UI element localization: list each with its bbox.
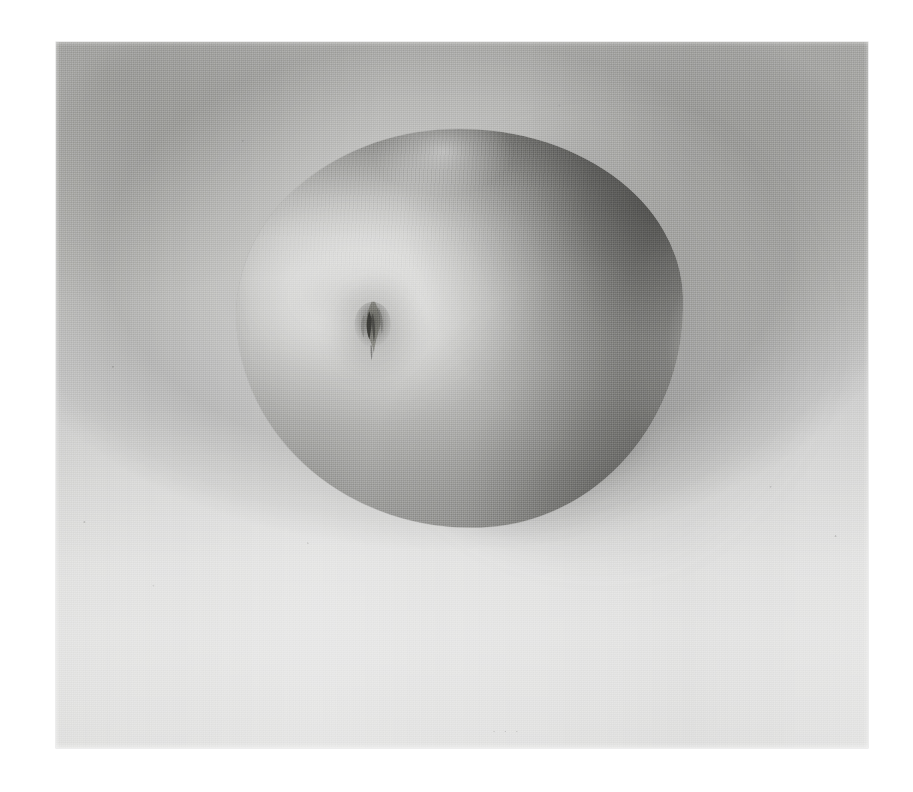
apple-blush-patch [297,258,415,326]
apple-form [230,121,690,535]
apple-bottom-left-shadow [230,121,690,535]
apple-top-shadow [230,121,690,535]
apple-main-highlight [230,121,690,535]
apple-top-highlight [230,121,690,535]
apple-right-shadow [230,121,690,535]
apple-base-modelling [230,121,690,535]
painting-canvas: · · · [56,42,868,748]
apple-bottom-right-shadow [230,121,690,535]
apple-brush-strokes [230,121,690,535]
apple-left-edge-shadow [230,121,690,535]
inscription: · · · [492,727,521,737]
apple-rim-light [230,121,690,535]
artwork-page: · · · [0,0,913,792]
